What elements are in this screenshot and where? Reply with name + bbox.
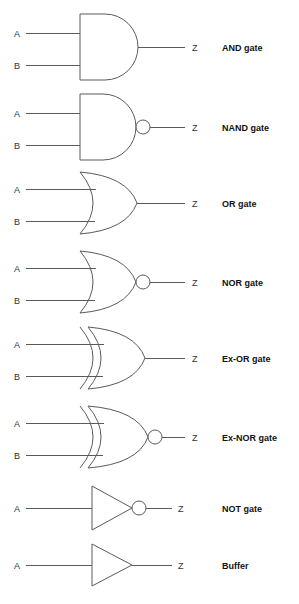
input-label-b: B	[14, 372, 20, 382]
output-label: Z	[192, 433, 198, 443]
inversion-bubble	[132, 501, 146, 515]
input-label-b: B	[14, 451, 20, 461]
gate-body-or	[88, 327, 145, 389]
output-label: Z	[192, 278, 198, 288]
gate-body-or	[80, 172, 137, 234]
gate-name-label: NOR gate	[222, 278, 263, 288]
gate-exnor[interactable]: ABZEx-NOR gate	[14, 406, 277, 468]
gate-not[interactable]: AZNOT gate	[14, 486, 262, 530]
inversion-bubble	[136, 120, 150, 134]
gate-name-label: Ex-OR gate	[222, 354, 271, 364]
input-label-b: B	[14, 141, 20, 151]
gate-buffer[interactable]: AZBuffer	[14, 544, 249, 586]
input-label-a: A	[14, 504, 20, 514]
inversion-bubble	[136, 275, 150, 289]
gate-body-triangle	[92, 486, 132, 530]
output-label: Z	[178, 504, 184, 514]
gate-body-and	[80, 94, 136, 160]
input-label-a: A	[14, 185, 20, 195]
output-label: Z	[178, 561, 184, 571]
inversion-bubble	[148, 430, 162, 444]
gate-name-label: NOT gate	[222, 504, 262, 514]
gate-body-triangle	[92, 544, 132, 586]
gate-name-label: AND gate	[222, 43, 263, 53]
exclusive-arc	[80, 327, 93, 389]
input-label-b: B	[14, 61, 20, 71]
input-label-b: B	[14, 217, 20, 227]
input-label-a: A	[14, 419, 20, 429]
gate-nor[interactable]: ABZNOR gate	[14, 251, 263, 313]
gate-exor[interactable]: ABZEx-OR gate	[14, 327, 271, 389]
input-label-a: A	[14, 561, 20, 571]
output-label: Z	[192, 123, 198, 133]
gate-body-or	[88, 406, 148, 468]
gate-name-label: NAND gate	[222, 123, 269, 133]
gate-or[interactable]: ABZOR gate	[14, 172, 257, 234]
input-label-a: A	[14, 340, 20, 350]
gate-and[interactable]: ABZAND gate	[14, 14, 263, 80]
output-label: Z	[192, 43, 198, 53]
logic-gates-diagram: ABZAND gateABZNAND gateABZOR gateABZNOR …	[0, 0, 299, 604]
input-label-b: B	[14, 296, 20, 306]
output-label: Z	[192, 199, 198, 209]
output-label: Z	[192, 354, 198, 364]
gate-name-label: Buffer	[222, 561, 249, 571]
gate-body-or	[80, 251, 136, 313]
input-label-a: A	[14, 109, 20, 119]
gate-canvas: ABZAND gateABZNAND gateABZOR gateABZNOR …	[0, 0, 299, 604]
input-label-a: A	[14, 264, 20, 274]
gate-name-label: Ex-NOR gate	[222, 433, 277, 443]
exclusive-arc	[80, 406, 93, 468]
gate-nand[interactable]: ABZNAND gate	[14, 94, 269, 160]
gate-body-and	[80, 14, 138, 80]
input-label-a: A	[14, 29, 20, 39]
gate-name-label: OR gate	[222, 199, 257, 209]
